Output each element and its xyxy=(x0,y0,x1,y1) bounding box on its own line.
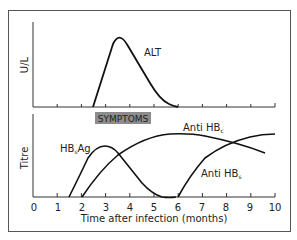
symptoms-annotation: SYMPTOMS xyxy=(95,112,151,124)
bottom-x-ticks xyxy=(57,193,275,197)
top-panel: U/L ALT xyxy=(19,22,275,107)
anti-hbs-label: Anti HBs xyxy=(201,168,242,180)
symptoms-label: SYMPTOMS xyxy=(98,114,149,124)
svg-text:8: 8 xyxy=(223,202,229,213)
x-tick-labels: 0 1 2 3 4 5 6 7 8 9 10 xyxy=(31,202,282,213)
x-axis-label: Time after infection (months) xyxy=(80,213,228,224)
top-y-axis-label: U/L xyxy=(19,56,30,73)
anti-hbs-curve xyxy=(178,134,275,197)
bottom-panel: Titre HBsAg Anti HBc Anti HBs 0 1 2 3 4 … xyxy=(19,114,281,224)
hbsag-label: HBsAg xyxy=(60,143,91,155)
bottom-y-axis-label: Titre xyxy=(19,147,30,171)
top-x-ticks xyxy=(57,103,275,107)
svg-text:10: 10 xyxy=(269,202,282,213)
svg-text:2: 2 xyxy=(79,202,85,213)
svg-text:7: 7 xyxy=(199,202,205,213)
svg-text:4: 4 xyxy=(127,202,133,213)
svg-text:9: 9 xyxy=(247,202,253,213)
anti-hbc-label: Anti HBc xyxy=(183,122,224,134)
svg-text:5: 5 xyxy=(151,202,157,213)
alt-curve xyxy=(93,38,178,107)
svg-text:1: 1 xyxy=(55,202,61,213)
hepatitis-b-chart: U/L ALT SYMPTOMS Titre HBsAg xyxy=(0,0,297,240)
alt-label: ALT xyxy=(144,47,162,58)
svg-text:0: 0 xyxy=(31,202,37,213)
svg-text:3: 3 xyxy=(103,202,109,213)
anti-hbc-curve xyxy=(82,134,265,197)
svg-text:6: 6 xyxy=(175,202,181,213)
